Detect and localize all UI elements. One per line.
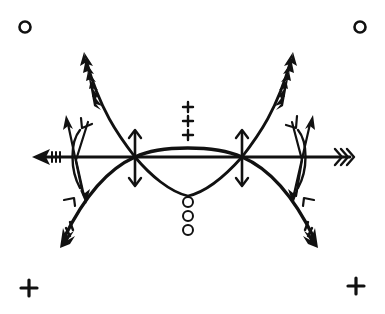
upper-left-barbed-arrow-icon xyxy=(80,52,135,157)
right-bow-icon xyxy=(286,115,315,206)
upper-right-barbed-arrow-icon xyxy=(242,52,297,157)
lower-lens-curve-icon xyxy=(135,157,242,196)
center-circle-marks-icon xyxy=(183,197,193,235)
corner-plus-bottom-right-icon xyxy=(348,278,364,294)
symbol-diagram xyxy=(0,0,385,314)
center-plus-marks-icon xyxy=(183,102,193,140)
corner-circle-top-left-icon xyxy=(20,22,31,33)
left-bow-icon xyxy=(63,115,92,206)
corner-plus-bottom-left-icon xyxy=(21,280,37,296)
corner-circle-top-right-icon xyxy=(355,22,366,33)
